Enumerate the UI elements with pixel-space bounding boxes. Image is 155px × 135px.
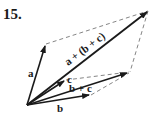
dashed-sum-to-bc <box>130 11 148 72</box>
label-sum: a + (b + c) <box>62 29 108 68</box>
label-a: a <box>28 67 34 79</box>
label-b: b <box>57 102 63 114</box>
label-b-plus-c: b + c <box>69 82 92 94</box>
vector-diagram: a b c b + c a + (b + c) <box>0 0 155 135</box>
